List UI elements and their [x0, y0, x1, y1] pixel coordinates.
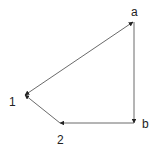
node-label-b: b: [142, 117, 149, 131]
node-label-2: 2: [57, 133, 64, 147]
node-label-1: 1: [9, 95, 16, 109]
node-label-a: a: [131, 5, 138, 19]
graph-diagram: a b 2 1: [0, 0, 158, 151]
edge-1-a: [25, 22, 133, 95]
edge-2-1: [25, 95, 60, 123]
